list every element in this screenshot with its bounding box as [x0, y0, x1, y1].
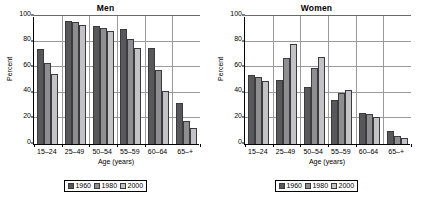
- bar-1980-15–24: [255, 77, 262, 144]
- y-tick-label: 20: [220, 111, 242, 118]
- legend-item-1960: 1960: [279, 182, 302, 190]
- legend-item-1980: 1980: [94, 182, 117, 190]
- bar-1960-65–+: [387, 131, 394, 144]
- legend-label: 1980: [101, 182, 117, 190]
- category-separator: [273, 16, 274, 144]
- bar-2000-55–59: [134, 48, 141, 144]
- legend-item-2000: 2000: [120, 182, 143, 190]
- bar-1980-50–54: [100, 28, 107, 144]
- bar-group: [300, 16, 328, 144]
- y-tick-label: 100: [9, 9, 31, 16]
- bar-1980-65–+: [394, 136, 401, 144]
- bar-1960-55–59: [331, 100, 338, 144]
- bar-1960-15–24: [248, 75, 255, 144]
- bar-group: [356, 16, 384, 144]
- bar-group: [172, 16, 200, 144]
- y-tick-label: 80: [220, 35, 242, 42]
- bar-2000-55–59: [345, 90, 352, 144]
- legend-swatch-icon: [120, 183, 126, 189]
- x-tick-mark: [200, 144, 201, 147]
- legend-swatch-icon: [305, 183, 311, 189]
- legend-item-1960: 1960: [68, 182, 91, 190]
- bar-1980-25–49: [283, 58, 290, 144]
- y-tick-label: 40: [220, 86, 242, 93]
- y-tick-label: 100: [220, 9, 242, 16]
- x-axis-label-men: Age (years): [33, 158, 199, 166]
- y-tick-label: 20: [9, 111, 31, 118]
- x-axis-label-women: Age (years): [244, 158, 410, 166]
- plot-area-men: 020406080100: [33, 17, 199, 145]
- bar-1980-25–49: [72, 22, 79, 144]
- plot-area-women: 020406080100: [244, 17, 410, 145]
- y-tick-label: 0: [220, 137, 242, 144]
- legend-swatch-icon: [94, 183, 100, 189]
- chart-title-women: Women: [211, 3, 422, 13]
- bar-groups: [34, 16, 200, 144]
- y-tick-label: 80: [9, 35, 31, 42]
- chart-panel-women: Women Percent 020406080100 15–2425–4950–…: [211, 0, 422, 203]
- bar-group: [89, 16, 117, 144]
- legend-swatch-icon: [279, 183, 285, 189]
- legend-label: 2000: [128, 182, 144, 190]
- bar-2000-25–49: [79, 25, 86, 144]
- figure-canvas: Men Percent 020406080100 15–2425–4950–54…: [0, 0, 422, 203]
- bar-1960-60–64: [148, 48, 155, 144]
- bar-group: [34, 16, 62, 144]
- y-tick-label: 60: [9, 60, 31, 67]
- legend-swatch-icon: [331, 183, 337, 189]
- category-separator: [300, 16, 301, 144]
- bar-group: [62, 16, 90, 144]
- category-separator: [62, 16, 63, 144]
- legend-box-women: 196019802000: [275, 180, 358, 192]
- chart-panel-men: Men Percent 020406080100 15–2425–4950–54…: [0, 0, 211, 203]
- category-separator: [89, 16, 90, 144]
- legend-item-2000: 2000: [331, 182, 354, 190]
- y-tick-label: 40: [9, 86, 31, 93]
- legend-label: 1960: [75, 182, 91, 190]
- legend-label: 1980: [312, 182, 328, 190]
- legend-box-men: 196019802000: [64, 180, 147, 192]
- bar-1980-55–59: [127, 39, 134, 144]
- y-tick-label: 0: [9, 137, 31, 144]
- bar-1960-65–+: [176, 103, 183, 144]
- bar-1960-25–49: [276, 80, 283, 144]
- x-tick-mark: [411, 144, 412, 147]
- legend-item-1980: 1980: [305, 182, 328, 190]
- category-separator: [117, 16, 118, 144]
- bar-group: [328, 16, 356, 144]
- bar-group: [145, 16, 173, 144]
- bar-2000-60–64: [162, 91, 169, 144]
- bar-group: [383, 16, 411, 144]
- category-separator: [172, 16, 173, 144]
- bar-group: [273, 16, 301, 144]
- bar-group: [117, 16, 145, 144]
- bar-1980-15–24: [44, 63, 51, 144]
- bar-2000-65–+: [190, 128, 197, 144]
- legend-women: 196019802000: [211, 180, 422, 192]
- bar-2000-15–24: [262, 81, 269, 144]
- category-separator: [383, 16, 384, 144]
- bar-1960-60–64: [359, 113, 366, 144]
- category-separator: [356, 16, 357, 144]
- chart-title-men: Men: [0, 3, 211, 13]
- bar-1960-50–54: [304, 87, 311, 144]
- bar-2000-50–54: [318, 57, 325, 144]
- bar-2000-50–54: [107, 31, 114, 144]
- bar-1980-65–+: [183, 121, 190, 144]
- bar-1960-15–24: [37, 49, 44, 144]
- legend-swatch-icon: [68, 183, 74, 189]
- y-tick-label: 60: [220, 60, 242, 67]
- bar-2000-65–+: [401, 138, 408, 144]
- bar-1980-55–59: [338, 93, 345, 144]
- bar-groups: [245, 16, 411, 144]
- bar-1960-25–49: [65, 21, 72, 144]
- legend-men: 196019802000: [0, 180, 211, 192]
- bar-1980-60–64: [155, 70, 162, 144]
- bar-2000-60–64: [373, 117, 380, 144]
- legend-label: 1960: [286, 182, 302, 190]
- bar-1960-50–54: [93, 26, 100, 144]
- bar-2000-25–49: [290, 44, 297, 144]
- bar-1980-60–64: [366, 114, 373, 144]
- bar-group: [245, 16, 273, 144]
- category-separator: [328, 16, 329, 144]
